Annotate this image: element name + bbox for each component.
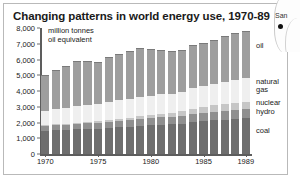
- bar-segment-nuclear: [157, 114, 165, 118]
- bar-top-edge: [231, 33, 239, 34]
- bar-segment-oil: [126, 51, 134, 99]
- bar-top-edge: [115, 54, 123, 55]
- bar-1980[interactable]: [147, 49, 155, 154]
- chart-screenshot: San Changing patterns in world energy us…: [0, 0, 300, 181]
- bar-segment-coal: [41, 131, 49, 154]
- bar-segment-natural-gas: [221, 82, 229, 104]
- y-tick-label: 4,000: [16, 87, 35, 96]
- bar-segment-oil: [73, 61, 81, 106]
- bar-segment-oil: [62, 66, 70, 108]
- bar-1979[interactable]: [136, 48, 144, 154]
- bar-segment-coal: [136, 126, 144, 154]
- bar-segment-nuclear: [115, 119, 123, 121]
- chart-card: Changing patterns in world energy use, 1…: [3, 3, 288, 175]
- bar-1986[interactable]: [210, 40, 218, 154]
- bar-segment-hydro: [199, 113, 207, 121]
- bar-segment-hydro: [62, 124, 70, 130]
- x-tick-mark: [246, 154, 247, 157]
- bar-segment-hydro: [242, 109, 250, 118]
- bar-segment-nuclear: [199, 107, 207, 113]
- bar-segment-coal: [221, 120, 229, 154]
- bar-1989[interactable]: [242, 31, 250, 154]
- bar-segment-natural-gas: [168, 94, 176, 113]
- bar-1981[interactable]: [157, 50, 165, 154]
- bar-segment-natural-gas: [126, 99, 134, 118]
- chart-title: Changing patterns in world energy use, 1…: [13, 10, 270, 22]
- bar-segment-natural-gas: [41, 111, 49, 125]
- bar-segment-oil: [168, 51, 176, 94]
- bar-segment-hydro: [126, 120, 134, 127]
- bar-1973[interactable]: [73, 61, 81, 154]
- x-tick-mark: [98, 154, 99, 157]
- bar-1976[interactable]: [105, 57, 113, 154]
- bar-segment-nuclear: [168, 113, 176, 117]
- bar-1978[interactable]: [126, 51, 134, 154]
- series-label-natural-gas-2: gas: [256, 86, 268, 95]
- y-tick-label: 6,000: [16, 55, 35, 64]
- x-tick-mark: [204, 154, 205, 157]
- bar-1977[interactable]: [115, 54, 123, 154]
- bar-segment-oil: [94, 62, 102, 105]
- bar-segment-natural-gas: [52, 109, 60, 124]
- bar-segment-coal: [189, 122, 197, 154]
- bar-segment-oil: [83, 61, 91, 105]
- bar-top-edge: [242, 31, 250, 32]
- bar-top-edge: [62, 66, 70, 67]
- bar-segment-hydro: [210, 112, 218, 120]
- bar-segment-natural-gas: [136, 97, 144, 116]
- map-city-marker-icon: [278, 24, 283, 29]
- y-tick-label: 5,000: [16, 71, 35, 80]
- x-tick-label: 1970: [37, 157, 54, 166]
- bar-segment-coal: [83, 129, 91, 154]
- bar-segment-coal: [126, 127, 134, 154]
- bar-1982[interactable]: [168, 51, 176, 154]
- bar-1972[interactable]: [62, 66, 70, 154]
- bar-1971[interactable]: [52, 70, 60, 154]
- x-tick-label: 1975: [90, 157, 107, 166]
- bar-1984[interactable]: [189, 45, 197, 154]
- bar-segment-hydro: [178, 116, 186, 124]
- bar-segment-oil: [157, 50, 165, 95]
- bar-segment-nuclear: [178, 111, 186, 116]
- bar-segment-hydro: [136, 119, 144, 126]
- bar-1975[interactable]: [94, 62, 102, 154]
- x-tick-label: 1989: [237, 157, 254, 166]
- y-tick-label: 3,000: [16, 102, 35, 111]
- bar-segment-natural-gas: [242, 78, 250, 102]
- bar-top-edge: [147, 49, 155, 50]
- bar-segment-coal: [168, 124, 176, 154]
- bar-segment-oil: [41, 75, 49, 111]
- bar-segment-nuclear: [242, 102, 250, 109]
- bar-segment-natural-gas: [157, 94, 165, 113]
- bar-top-edge: [126, 51, 134, 52]
- bar-segment-nuclear: [189, 109, 197, 115]
- bar-segment-oil: [199, 43, 207, 86]
- bar-1983[interactable]: [178, 50, 186, 155]
- bar-segment-hydro: [83, 123, 91, 129]
- bar-1974[interactable]: [83, 61, 91, 154]
- y-axis-labels: 01,0002,0003,0004,0005,0006,0007,0008,00…: [4, 4, 40, 176]
- bar-segment-hydro: [94, 123, 102, 129]
- bar-segment-hydro: [168, 117, 176, 125]
- bar-segment-natural-gas: [83, 105, 91, 122]
- bar-top-edge: [94, 62, 102, 63]
- bar-segment-natural-gas: [147, 96, 155, 115]
- bar-segment-hydro: [105, 122, 113, 128]
- x-tick-label: 1985: [195, 157, 212, 166]
- bar-segment-coal: [94, 129, 102, 154]
- x-tick-label: 1980: [142, 157, 159, 166]
- bar-segment-natural-gas: [199, 86, 207, 107]
- bar-1970[interactable]: [41, 75, 49, 154]
- bar-1985[interactable]: [199, 43, 207, 155]
- bar-segment-oil: [189, 45, 197, 88]
- x-axis-line: [40, 154, 252, 156]
- bar-segment-hydro: [147, 118, 155, 125]
- bar-top-edge: [105, 57, 113, 58]
- bar-top-edge: [136, 48, 144, 49]
- bar-segment-coal: [105, 128, 113, 154]
- bar-1987[interactable]: [221, 36, 229, 154]
- bar-segment-coal: [242, 118, 250, 154]
- bar-segment-nuclear: [210, 105, 218, 112]
- bar-1988[interactable]: [231, 33, 239, 154]
- bar-segment-oil: [147, 49, 155, 96]
